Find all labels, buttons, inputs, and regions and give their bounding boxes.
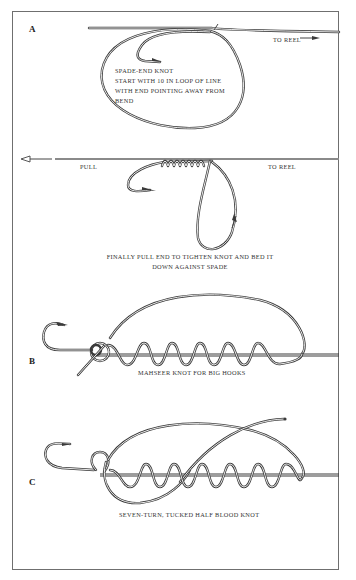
panel-b-caption: MAHSEER KNOT FOR BIG HOOKS [138,368,246,377]
panel-b-letter: B [29,356,35,366]
panel-c-drawing [45,417,339,503]
to-reel-label: TO REEL [273,35,301,44]
panel-a-caption-4: BEND [115,96,134,105]
panel-a-letter: A [29,24,36,34]
panel-b-drawing [43,295,339,375]
hook-barb-icon [56,322,68,326]
panel-c-letter: C [29,477,36,487]
arrow-left-icon [21,156,30,162]
panel-a-caption-3: WITH END POINTING AWAY FROM [115,86,225,95]
pull-label: PULL [80,162,97,171]
panel-c-caption: SEVEN-TURN, TUCKED HALF BLOOD KNOT [119,510,259,519]
panel-a-step2-caption-1: FINALLY PULL END TO TIGHTEN KNOT AND BED… [80,252,300,261]
panel-a-caption-1: SPADE-END KNOT [115,66,173,75]
to-reel-label-2: TO REEL [268,162,296,171]
arrow-right-icon [312,36,320,40]
panel-a-step2-caption-2: DOWN AGAINST SPADE [80,262,300,271]
panel-a-caption-2: START WITH 10 IN LOOP OF LINE [115,76,221,85]
